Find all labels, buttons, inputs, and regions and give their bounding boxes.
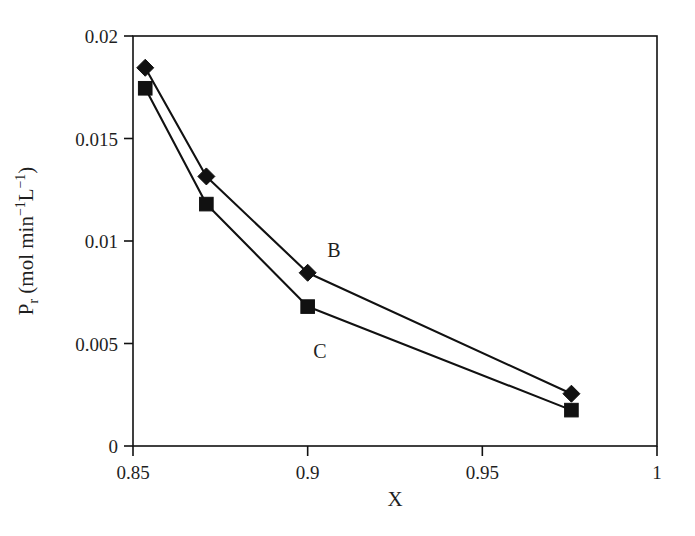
x-tick-label-0: 0.85 (116, 463, 149, 482)
x-tick-label-1: 0.9 (296, 463, 320, 482)
y-tick-label-0: 0 (0, 437, 118, 456)
data-point-c-0 (138, 81, 152, 95)
x-tick-label-2: 0.95 (466, 463, 499, 482)
x-axis-title: X (387, 487, 402, 512)
data-point-b-0 (137, 59, 154, 76)
data-point-c-1 (200, 197, 214, 211)
data-point-c-3 (565, 403, 579, 417)
y-axis-title: Pr (mol min−1L−1) (14, 91, 39, 391)
series-b (137, 59, 580, 402)
y-axis-units-exponent-1: −1 (13, 201, 28, 216)
data-point-c-2 (301, 300, 315, 314)
series-line-b (145, 68, 571, 394)
series-line-c (145, 88, 571, 410)
y-axis-units-mid: L (14, 189, 38, 202)
y-tick-label-4: 0.02 (0, 27, 118, 46)
y-axis-symbol: P (14, 304, 38, 316)
y-axis-units-suffix: ) (14, 167, 38, 174)
series-label-b: B (327, 239, 340, 262)
data-point-b-3 (563, 385, 580, 402)
chart-figure: 00.0050.010.0150.020.850.90.951 BC Pr (m… (0, 0, 695, 536)
y-axis-symbol-subscript: r (26, 299, 41, 304)
plot-canvas (0, 0, 695, 536)
x-tick-label-3: 1 (652, 463, 662, 482)
y-axis-units-exponent-2: −1 (13, 174, 28, 189)
axes-frame (133, 36, 657, 446)
series-label-c: C (313, 339, 326, 362)
data-series (137, 59, 580, 417)
y-axis-units-prefix: (mol min (14, 216, 38, 299)
